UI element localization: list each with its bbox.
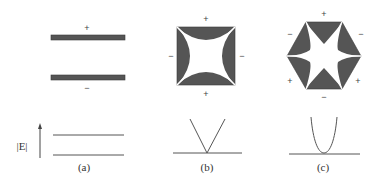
- panel-a-electrodes: [51, 35, 125, 80]
- panel-c-lower-left-sign: +: [287, 76, 292, 86]
- figure-canvas: + − + + − − + − − + + − |E|: [0, 0, 379, 187]
- caption-a: (a): [78, 161, 91, 174]
- panel-b-left-sign: −: [168, 51, 173, 61]
- panel-c-upper-left-sign: −: [287, 29, 292, 39]
- axis-label: |E|: [16, 140, 27, 152]
- panel-b-right-sign: −: [239, 51, 244, 61]
- panel-b-top-sign: +: [203, 14, 208, 24]
- panel-c-dispersion: [289, 117, 360, 154]
- panel-b-electrodes: [177, 27, 235, 85]
- panel-c-top-sign: +: [321, 9, 326, 19]
- panel-c-electrodes: [287, 22, 361, 89]
- panel-c-lower-right-sign: +: [355, 76, 360, 86]
- energy-axis: [38, 123, 42, 158]
- panel-a-bottom-sign: −: [84, 83, 89, 93]
- bottom-plate: [51, 75, 125, 80]
- panel-b-bottom-sign: +: [203, 89, 208, 99]
- panel-a-top-sign: +: [84, 23, 89, 33]
- panel-c-upper-right-sign: −: [358, 29, 363, 39]
- panel-b-dispersion: [173, 119, 242, 153]
- panel-a-dispersion: [53, 135, 124, 155]
- arrow-head-icon: [38, 123, 42, 129]
- caption-c: (c): [317, 161, 330, 174]
- top-plate: [51, 35, 125, 40]
- panel-c-bottom-sign: −: [321, 92, 326, 102]
- caption-b: (b): [201, 161, 214, 174]
